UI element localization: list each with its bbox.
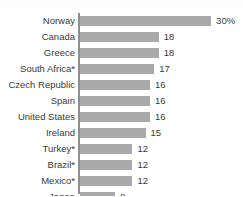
bar [80, 144, 132, 154]
bar [80, 80, 150, 90]
category-label: Greece [0, 47, 75, 58]
table-row: Ireland15 [0, 125, 243, 141]
bar [80, 16, 211, 26]
table-row: Czech Republic16 [0, 77, 243, 93]
table-row: Canada18 [0, 29, 243, 45]
bar [80, 64, 154, 74]
bar-value-label: 8 [120, 191, 125, 196]
bar-value-label: 16 [155, 111, 166, 122]
table-row: Greece18 [0, 45, 243, 61]
bar [80, 192, 115, 197]
bar-value-label: 12 [137, 159, 148, 170]
table-row: Spain16 [0, 93, 243, 109]
category-label: Mexico* [0, 175, 75, 186]
category-label: Czech Republic [0, 79, 75, 90]
bar-value-label: 17 [159, 63, 170, 74]
category-label: Turkey* [0, 143, 75, 154]
bar-value-label: 15 [151, 127, 162, 138]
category-label: Japan [0, 191, 75, 196]
table-row: Brazil*12 [0, 157, 243, 173]
plot-area: Norway30%Canada18Greece18South Africa*17… [0, 9, 243, 196]
top-cropped-band [0, 0, 243, 9]
bar [80, 32, 159, 42]
bar-value-label: 18 [164, 31, 175, 42]
bar-value-label: 16 [155, 79, 166, 90]
table-row: Japan8 [0, 189, 243, 196]
bar [80, 96, 150, 106]
bar [80, 160, 132, 170]
bar [80, 112, 150, 122]
category-label: South Africa* [0, 63, 75, 74]
bar-value-label: 18 [164, 47, 175, 58]
category-label: Brazil* [0, 159, 75, 170]
bar [80, 48, 159, 58]
table-row: Norway30% [0, 13, 243, 29]
bar-chart: Norway30%Canada18Greece18South Africa*17… [0, 0, 243, 196]
bar-value-label: 30% [216, 15, 235, 26]
category-label: Norway [0, 15, 75, 26]
bar-value-label: 12 [137, 175, 148, 186]
table-row: Turkey*12 [0, 141, 243, 157]
bar-value-label: 16 [155, 95, 166, 106]
category-label: Spain [0, 95, 75, 106]
table-row: South Africa*17 [0, 61, 243, 77]
category-label: Canada [0, 31, 75, 42]
bar [80, 128, 146, 138]
category-label: United States [0, 111, 75, 122]
bar-value-label: 12 [137, 143, 148, 154]
table-row: Mexico*12 [0, 173, 243, 189]
table-row: United States16 [0, 109, 243, 125]
bar [80, 176, 132, 186]
category-label: Ireland [0, 127, 75, 138]
